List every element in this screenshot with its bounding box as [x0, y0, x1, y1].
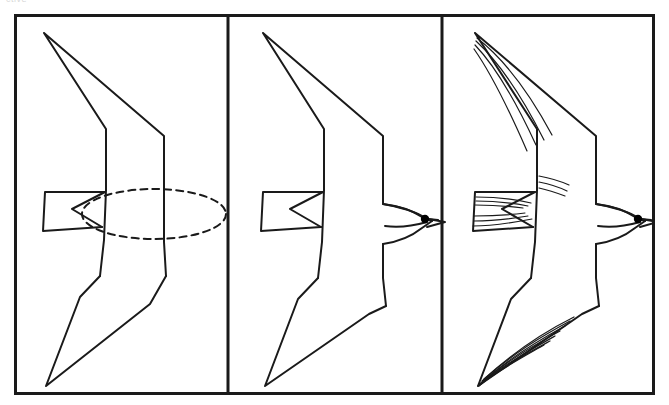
- clipped-caption-text: ctive: [6, 0, 126, 4]
- eye-dot: [634, 215, 642, 223]
- eye-dot: [421, 215, 429, 223]
- plate-svg: [14, 14, 655, 395]
- three-panel-plate: [14, 14, 655, 395]
- page-root: ctive: [0, 0, 669, 405]
